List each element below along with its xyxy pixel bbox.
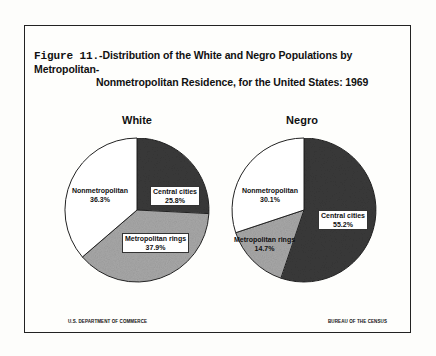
figure-number: Figure 11.: [34, 50, 99, 62]
white-label-central: Central cities 25.8%: [150, 186, 200, 206]
white-pie-chart: [62, 135, 212, 285]
white-label-rings: Metropolitan rings 37.9%: [122, 233, 189, 253]
white-label-nonmetro: Nonmetropolitan 36.3%: [72, 186, 128, 204]
negro-pie-title: Negro: [262, 114, 342, 126]
figure-title: Figure 11.-Distribution of the White and…: [34, 49, 414, 89]
negro-label-rings: Metropolitan rings 14.7%: [234, 235, 295, 253]
footer-bureau: BUREAU OF THE CENSUS: [328, 319, 387, 324]
negro-label-nonmetro: Nonmetropolitan 30.1%: [242, 186, 298, 204]
white-pie-title: White: [97, 114, 177, 126]
footer-department: U.S. DEPARTMENT OF COMMERCE: [68, 319, 147, 324]
negro-label-central: Central cities 55.2%: [318, 210, 368, 230]
figure-title-line2: Nonmetropolitan Residence, for the Unite…: [34, 76, 414, 89]
